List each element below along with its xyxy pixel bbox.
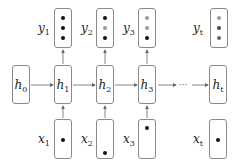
output-dot bbox=[61, 36, 65, 40]
output-dot bbox=[217, 26, 221, 30]
input-box-x1 bbox=[54, 119, 72, 159]
output-box-y1 bbox=[54, 8, 72, 48]
label-y3: y3 bbox=[123, 22, 135, 39]
label-x3: x3 bbox=[123, 133, 135, 150]
hidden-box-ht: ht bbox=[209, 65, 227, 104]
hidden-box-h0: h0 bbox=[12, 65, 30, 104]
input-dot bbox=[216, 138, 220, 142]
ellipsis: ··· bbox=[179, 80, 188, 90]
rnn-diagram: ··· y1 y2 y3 yt h0 h1 h2 h3 ht x1 bbox=[0, 0, 238, 168]
output-dot bbox=[145, 16, 149, 20]
output-dot bbox=[103, 16, 107, 20]
label-ht: ht bbox=[210, 78, 226, 94]
output-dot bbox=[145, 36, 149, 40]
output-box-yt bbox=[210, 8, 228, 48]
input-box-xt bbox=[209, 119, 227, 159]
output-dot bbox=[217, 16, 221, 20]
label-yt: yt bbox=[193, 22, 203, 39]
hidden-box-h1: h1 bbox=[54, 65, 72, 104]
label-h0: h0 bbox=[13, 78, 29, 94]
output-dot bbox=[61, 26, 65, 30]
input-dot bbox=[103, 151, 107, 155]
label-h2: h2 bbox=[97, 78, 113, 94]
output-dot bbox=[103, 36, 107, 40]
input-dot bbox=[145, 126, 149, 130]
output-box-y2 bbox=[96, 8, 114, 48]
hidden-box-h3: h3 bbox=[138, 65, 156, 104]
input-box-x2 bbox=[96, 119, 114, 159]
output-dot bbox=[103, 26, 107, 30]
input-box-x3 bbox=[138, 119, 156, 159]
label-xt: xt bbox=[193, 133, 203, 150]
output-dot bbox=[217, 36, 221, 40]
label-x2: x2 bbox=[81, 133, 93, 150]
label-h1: h1 bbox=[55, 78, 71, 94]
output-dot bbox=[145, 26, 149, 30]
label-y2: y2 bbox=[81, 22, 93, 39]
label-h3: h3 bbox=[139, 78, 155, 94]
label-x1: x1 bbox=[38, 133, 50, 150]
output-dot bbox=[61, 16, 65, 20]
input-dot bbox=[61, 138, 65, 142]
output-box-y3 bbox=[138, 8, 156, 48]
hidden-box-h2: h2 bbox=[96, 65, 114, 104]
label-y1: y1 bbox=[38, 22, 50, 39]
